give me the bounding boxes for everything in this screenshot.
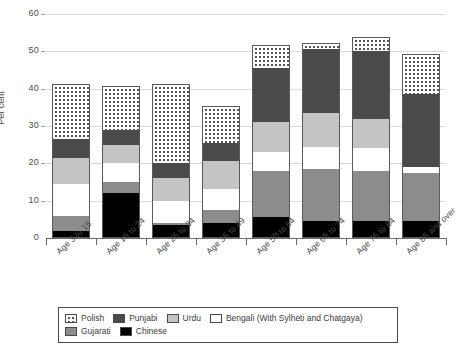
bar-segment-gujarati[interactable] (102, 181, 140, 193)
bar-segment-polish[interactable] (402, 54, 440, 94)
x-tick-mark (46, 238, 47, 245)
y-tick-label: 20 (13, 157, 39, 167)
plot-area (46, 14, 446, 238)
bar-segment-polish[interactable] (102, 86, 140, 130)
bar-segment-bengali[interactable] (352, 147, 390, 170)
x-tick-mark (396, 238, 397, 245)
bar-age-16-to-24[interactable] (102, 87, 140, 238)
bar-segment-urdu[interactable] (52, 157, 90, 184)
bar-segment-bengali[interactable] (202, 188, 240, 210)
bar-segment-punjabi[interactable] (152, 162, 190, 178)
bar-segment-punjabi[interactable] (52, 138, 90, 158)
y-tick-mark (41, 51, 45, 52)
legend-item-chinese[interactable]: Chinese (120, 327, 167, 336)
x-tick-mark (346, 238, 347, 245)
y-tick-label: 50 (13, 45, 39, 55)
y-tick-mark (41, 14, 45, 15)
bar-segment-polish[interactable] (252, 45, 290, 68)
legend-swatch-chinese-icon (120, 327, 132, 336)
bar-segment-urdu[interactable] (152, 177, 190, 200)
legend-swatch-polish-icon (65, 314, 77, 323)
y-tick-mark (41, 201, 45, 202)
y-tick-mark (41, 163, 45, 164)
bar-age-65-to-74[interactable] (302, 44, 340, 238)
legend-label: Punjabi (129, 314, 157, 323)
y-tick-label: 60 (13, 8, 39, 18)
bars-layer (46, 14, 446, 238)
bar-segment-urdu[interactable] (352, 118, 390, 149)
bar-segment-gujarati[interactable] (402, 172, 440, 222)
legend-item-polish[interactable]: Polish (65, 314, 104, 323)
bar-segment-bengali[interactable] (102, 162, 140, 182)
y-tick-label: 10 (13, 195, 39, 205)
bar-segment-polish[interactable] (152, 84, 190, 163)
y-tick-mark (41, 126, 45, 127)
legend-row: PolishPunjabiUrduBengali (With Sylheti a… (65, 312, 391, 325)
x-tick-mark (296, 238, 297, 245)
x-tick-mark (146, 238, 147, 245)
bar-segment-polish[interactable] (302, 43, 340, 50)
legend-label: Bengali (With Sylheti and Chatgaya) (226, 314, 363, 323)
legend-label: Urdu (183, 314, 201, 323)
y-tick-label: 0 (13, 232, 39, 242)
bar-age-35-to-49[interactable] (202, 107, 240, 238)
legend-label: Chinese (136, 327, 167, 336)
bar-segment-punjabi[interactable] (302, 48, 340, 112)
y-axis-title: Per cent (0, 91, 6, 125)
bar-segment-polish[interactable] (352, 37, 390, 51)
x-tick-mark (96, 238, 97, 245)
bar-segment-punjabi[interactable] (252, 67, 290, 122)
bar-age-25-to-34[interactable] (152, 85, 190, 238)
bar-age-3-to-15[interactable] (52, 85, 90, 238)
legend-swatch-bengali-icon (210, 314, 222, 323)
legend-item-gujarati[interactable]: Gujarati (65, 327, 111, 336)
bar-segment-urdu[interactable] (202, 160, 240, 189)
y-tick-label: 30 (13, 120, 39, 130)
bar-segment-punjabi[interactable] (402, 93, 440, 167)
bar-segment-punjabi[interactable] (352, 50, 390, 118)
legend-item-punjabi[interactable]: Punjabi (113, 314, 157, 323)
legend-item-urdu[interactable]: Urdu (167, 314, 201, 323)
legend-swatch-urdu-icon (167, 314, 179, 323)
legend-row: GujaratiChinese (65, 325, 391, 338)
legend-swatch-gujarati-icon (65, 327, 77, 336)
bar-segment-bengali[interactable] (252, 151, 290, 171)
bar-segment-punjabi[interactable] (102, 129, 140, 145)
chart-legend: PolishPunjabiUrduBengali (With Sylheti a… (58, 307, 398, 343)
bar-age-75-to-84[interactable] (352, 38, 390, 238)
bar-segment-polish[interactable] (202, 106, 240, 142)
bar-segment-urdu[interactable] (102, 144, 140, 164)
bar-segment-urdu[interactable] (252, 121, 290, 152)
bar-segment-bengali[interactable] (52, 183, 90, 216)
bar-segment-punjabi[interactable] (202, 142, 240, 162)
bar-age-85-and-over[interactable] (402, 55, 440, 238)
bar-segment-bengali[interactable] (302, 146, 340, 169)
legend-swatch-punjabi-icon (113, 314, 125, 323)
bar-age-50-to-64[interactable] (252, 46, 290, 238)
x-tick-mark (196, 238, 197, 245)
y-tick-label: 40 (13, 83, 39, 93)
stacked-bar-chart: 0102030405060 Per cent Age 3 to 15Age 16… (0, 0, 460, 355)
bar-segment-gujarati[interactable] (252, 170, 290, 218)
bar-segment-urdu[interactable] (302, 112, 340, 147)
bar-segment-gujarati[interactable] (352, 170, 390, 221)
legend-label: Gujarati (81, 327, 111, 336)
y-tick-mark (41, 89, 45, 90)
legend-label: Polish (81, 314, 104, 323)
bar-segment-polish[interactable] (52, 84, 90, 139)
bar-segment-gujarati[interactable] (302, 168, 340, 221)
legend-item-bengali[interactable]: Bengali (With Sylheti and Chatgaya) (210, 314, 363, 323)
x-tick-mark (446, 238, 447, 245)
x-tick-mark (246, 238, 247, 245)
